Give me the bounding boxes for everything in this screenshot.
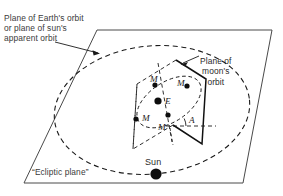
- moon-position-4-marker: [165, 112, 170, 117]
- moon-position-2-marker: [184, 83, 189, 88]
- astronomy-diagram: Plane of Earth's orbit or plane of sun's…: [0, 0, 283, 196]
- sun-marker: [150, 168, 161, 179]
- earth-orbit-leader-arrowhead: [93, 50, 101, 55]
- earth-orbit-leader-line: [55, 42, 98, 53]
- moon-position-4-label: M: [158, 122, 166, 132]
- moon-position-1-label: M: [150, 74, 158, 84]
- node-tick-line: [170, 128, 173, 145]
- ecliptic-plane-label: “Ecliptic plane”: [32, 167, 89, 177]
- inclination-angle-arc: [184, 119, 186, 127]
- moon-orbit-plane-label: Plane of moon's orbit: [200, 56, 232, 87]
- inclination-angle-label: A: [189, 115, 195, 125]
- moon-position-3-label: M: [142, 113, 150, 123]
- earth-marker: [154, 97, 161, 104]
- earth-point-label: E: [165, 96, 171, 106]
- sun-label: Sun: [145, 157, 161, 167]
- moon-plane-solid-edge-bottom: [173, 60, 176, 125]
- moon-position-3-marker: [133, 116, 138, 121]
- earth-orbit-plane-label: Plane of Earth's orbit or plane of sun's…: [4, 13, 84, 44]
- moon-position-2-label: M: [177, 78, 185, 88]
- moon-plane-leader-line: [183, 56, 199, 63]
